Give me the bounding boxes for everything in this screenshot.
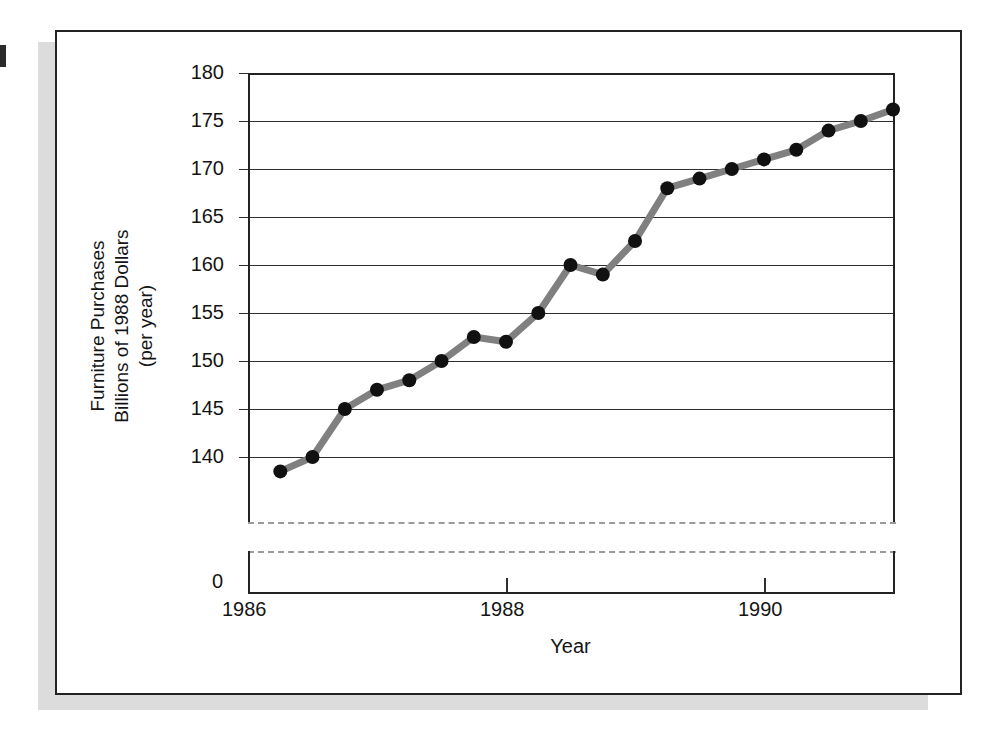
figure-border (55, 30, 962, 695)
figure-shadow-left (38, 42, 55, 710)
page-edge-artifact (0, 45, 6, 67)
figure-shadow-bottom (38, 695, 928, 710)
